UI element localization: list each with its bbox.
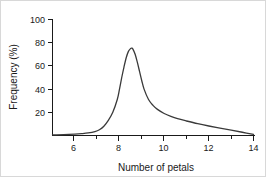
x-tick-label-10: 10 <box>158 143 168 153</box>
y-axis-tick-labels: 100 80 60 40 20 <box>30 15 45 118</box>
x-axis-tick-labels: 6 8 10 12 14 <box>71 143 259 153</box>
y-axis-group: 100 80 60 40 20 Frequency (%) <box>8 15 53 136</box>
frequency-distribution-chart: 100 80 60 40 20 Frequency (%) <box>1 1 266 177</box>
x-axis-group: 6 8 10 12 14 Number of petals <box>53 136 259 174</box>
y-axis-title: Frequency (%) <box>8 44 19 110</box>
x-tick-label-8: 8 <box>116 143 121 153</box>
x-axis-major-ticks <box>74 136 254 141</box>
y-axis-ticks <box>48 20 53 113</box>
x-tick-label-14: 14 <box>248 143 258 153</box>
y-tick-label-60: 60 <box>35 61 45 71</box>
chart-container: 100 80 60 40 20 Frequency (%) <box>0 0 266 177</box>
x-tick-label-6: 6 <box>71 143 76 153</box>
y-tick-label-80: 80 <box>35 38 45 48</box>
y-tick-label-20: 20 <box>35 108 45 118</box>
x-axis-title: Number of petals <box>118 162 194 173</box>
y-tick-label-100: 100 <box>30 15 45 25</box>
y-tick-label-40: 40 <box>35 85 45 95</box>
frequency-curve <box>53 48 254 135</box>
x-tick-label-12: 12 <box>203 143 213 153</box>
